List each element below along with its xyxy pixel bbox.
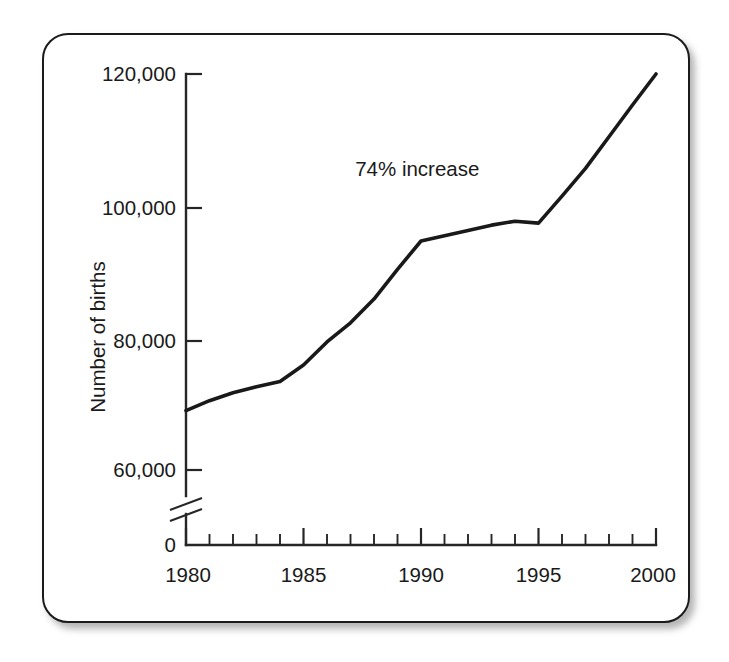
figure-border-frame — [42, 33, 690, 623]
figure-root: 120,000 100,000 80,000 60,000 0 Number o… — [0, 0, 729, 662]
